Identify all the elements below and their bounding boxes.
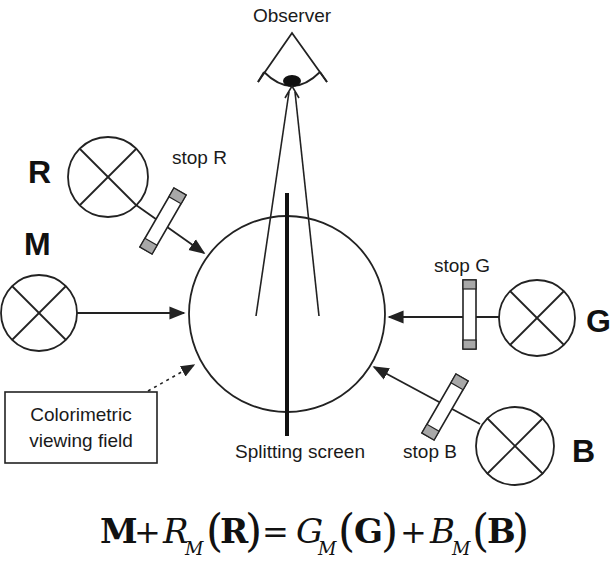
viewing-field-label-line1: Colorimetric (30, 404, 131, 425)
svg-text:=: = (262, 513, 289, 551)
svg-text:M: M (100, 511, 138, 551)
stop-g-label: stop G (434, 255, 490, 276)
stop-g-filter (463, 280, 476, 349)
stop-r-filter (140, 188, 186, 254)
svg-text:(: ( (338, 505, 355, 556)
svg-text:+: + (400, 513, 427, 551)
svg-text:): ) (245, 505, 262, 556)
lamp-b-icon (476, 407, 554, 485)
svg-text:M: M (451, 538, 471, 559)
source-label-r: R (28, 154, 51, 190)
beam-b-arrow (374, 367, 480, 424)
svg-text:M: M (184, 538, 204, 559)
stop-b-label: stop B (403, 441, 457, 462)
source-label-b: B (572, 433, 595, 469)
observer-label: Observer (253, 5, 332, 26)
lamp-m-icon (1, 275, 77, 351)
callout-dotted-arrow (148, 365, 194, 391)
svg-text:): ) (381, 505, 398, 556)
splitting-screen-label: Splitting screen (235, 441, 365, 462)
colorimetry-diagram: Observer R stop R M Colorimetric viewi (0, 0, 612, 568)
matching-equation: M + R M ( R ) = G M ( G ) + B M ( B ) (100, 505, 529, 559)
observer-eye-icon (258, 33, 327, 87)
viewing-field-label-line2: viewing field (29, 430, 133, 451)
viewing-field-callout-box (5, 392, 157, 463)
stop-r-label: stop R (172, 147, 227, 168)
svg-text:+: + (134, 513, 161, 551)
source-label-m: M (24, 226, 51, 262)
source-label-g: G (586, 303, 611, 339)
svg-text:M: M (317, 538, 337, 559)
svg-text:G: G (354, 511, 383, 551)
lamp-g-icon (499, 280, 575, 356)
stop-b-filter (422, 374, 468, 440)
svg-text:): ) (512, 505, 529, 556)
